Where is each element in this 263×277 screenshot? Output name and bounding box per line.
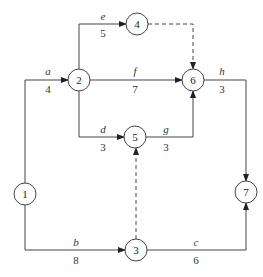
node-2-label: 2 — [76, 74, 82, 86]
dummy-4-6-arrow — [148, 24, 193, 69]
activity-a-name: a — [45, 65, 51, 77]
activity-h-arrow — [204, 80, 246, 181]
node-1-label: 1 — [22, 188, 28, 200]
activity-b-duration: 8 — [73, 254, 79, 266]
activity-c-name: c — [194, 236, 199, 248]
activity-h-duration: 3 — [219, 83, 225, 95]
node-4-label: 4 — [134, 18, 140, 30]
node-6-label: 6 — [190, 74, 196, 86]
activity-h-name: h — [219, 65, 225, 77]
node-2: 2 — [68, 69, 90, 91]
activity-a-arrow — [25, 80, 68, 183]
activity-f-name: f — [133, 65, 138, 77]
node-5-label: 5 — [132, 131, 138, 143]
activity-f-duration: 7 — [132, 83, 138, 95]
node-1: 1 — [14, 183, 36, 205]
network-diagram: a 4 b 8 c 6 d 3 e 5 f 7 g 3 h 3 1 2 3 4 … — [0, 0, 263, 277]
activity-c-duration: 6 — [193, 254, 199, 266]
node-5: 5 — [124, 126, 146, 148]
node-3-label: 3 — [133, 244, 139, 256]
activity-g-name: g — [163, 123, 169, 135]
activity-d-duration: 3 — [100, 141, 106, 153]
node-6: 6 — [182, 69, 204, 91]
activity-g-duration: 3 — [163, 141, 169, 153]
activity-e-name: e — [101, 10, 106, 22]
node-3: 3 — [125, 239, 147, 261]
activity-e-duration: 5 — [100, 27, 106, 39]
activity-d-name: d — [100, 123, 106, 135]
activity-b-name: b — [73, 236, 79, 248]
activity-a-duration: 4 — [45, 83, 51, 95]
node-4: 4 — [126, 13, 148, 35]
node-7: 7 — [235, 181, 257, 203]
node-7-label: 7 — [243, 186, 249, 198]
activity-g-arrow — [146, 91, 193, 137]
